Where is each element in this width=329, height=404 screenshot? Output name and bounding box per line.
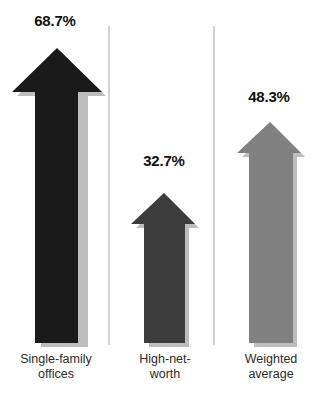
category-label-weighted-average: Weighted average bbox=[221, 352, 321, 382]
arrow-shadow-weighted-average bbox=[242, 126, 305, 347]
category-label-line2: worth bbox=[116, 367, 214, 382]
arrow-shadow-high-net-worth bbox=[136, 197, 199, 347]
category-label-high-net-worth: High-net- worth bbox=[116, 352, 214, 382]
column-divider-1 bbox=[108, 26, 110, 345]
value-label-weighted-average: 48.3% bbox=[222, 88, 316, 105]
arrow-shadow-single-family-offices bbox=[17, 52, 106, 347]
category-label-line2: average bbox=[221, 367, 321, 382]
category-label-single-family-offices: Single-family offices bbox=[1, 352, 111, 382]
category-label-line1: High-net- bbox=[116, 352, 214, 367]
category-label-line1: Single-family bbox=[1, 352, 111, 367]
arrow-bar-chart: 68.7% 32.7% 48.3% Single-family offices … bbox=[0, 0, 329, 404]
arrow-high-net-worth bbox=[131, 193, 195, 343]
category-label-line2: offices bbox=[1, 367, 111, 382]
category-label-line1: Weighted bbox=[221, 352, 321, 367]
arrow-graphics bbox=[0, 0, 329, 404]
column-divider-2 bbox=[213, 26, 215, 345]
value-label-single-family-offices: 68.7% bbox=[8, 12, 102, 29]
value-label-high-net-worth: 32.7% bbox=[118, 152, 210, 169]
arrow-weighted-average bbox=[237, 122, 301, 343]
arrow-single-family-offices bbox=[12, 48, 102, 343]
